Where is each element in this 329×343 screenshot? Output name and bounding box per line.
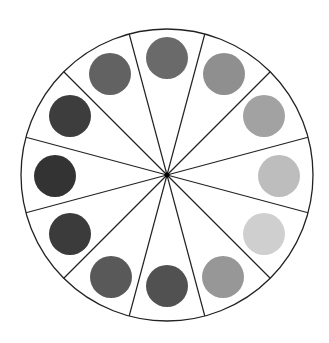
value-dot-upper-left-1 [89, 53, 131, 95]
value-dot-lower-right-2 [243, 213, 285, 255]
value-wheel-diagram [0, 0, 329, 343]
value-dot-bottom [146, 265, 188, 307]
value-dot-right [258, 155, 300, 197]
value-dot-upper-right-1 [203, 53, 245, 95]
value-dot-upper-right-2 [243, 95, 285, 137]
value-dot-top [146, 37, 188, 79]
value-dot-upper-left-2 [49, 95, 91, 137]
value-dot-lower-right-1 [202, 256, 244, 298]
center-hub [165, 173, 170, 178]
value-dot-left [34, 155, 76, 197]
value-dot-lower-left-2 [49, 213, 91, 255]
value-dot-lower-left-1 [90, 256, 132, 298]
